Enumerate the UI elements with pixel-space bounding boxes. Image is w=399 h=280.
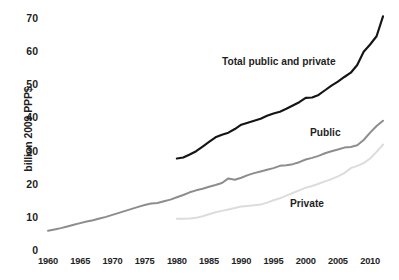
chart-container: billion 2009 PPP$ 010203040506070 196019… — [0, 0, 399, 280]
series-annotation-total: Total public and private — [222, 57, 336, 67]
plot-area — [0, 0, 399, 280]
series-line-total — [177, 16, 383, 158]
series-annotation-private: Private — [290, 199, 324, 209]
series-line-private — [177, 145, 383, 219]
series-annotation-public: Public — [310, 128, 341, 138]
